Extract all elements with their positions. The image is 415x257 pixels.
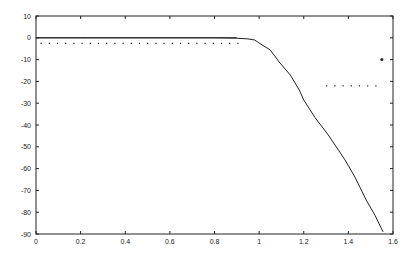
y-tick-label: 0 [27, 34, 31, 41]
marker-point [380, 58, 383, 61]
plot-frame [36, 16, 393, 234]
x-tick-label: 0.2 [76, 238, 86, 245]
y-tick-label: -30 [21, 100, 31, 107]
x-tick-label: 1.4 [344, 238, 354, 245]
y-tick-label: -40 [21, 122, 31, 129]
x-tick-label: 0 [34, 238, 38, 245]
plot-area [36, 16, 393, 234]
x-tick-label: 0.6 [165, 238, 175, 245]
chart: 00.20.40.60.811.21.41.6 100-10-20-30-40-… [0, 0, 415, 257]
y-tick-label: 10 [23, 13, 31, 20]
x-tick-label: 1 [257, 238, 261, 245]
y-tick-label: -80 [21, 209, 31, 216]
y-tick-label: -50 [21, 143, 31, 150]
x-tick-label: 1.6 [388, 238, 398, 245]
y-tick-label: -20 [21, 78, 31, 85]
x-tick-label: 1.2 [299, 238, 309, 245]
y-axis: 100-10-20-30-40-50-60-70-80-90 [21, 13, 393, 238]
x-tick-label: 0.8 [210, 238, 220, 245]
y-tick-label: -90 [21, 231, 31, 238]
response-line [36, 38, 383, 232]
x-tick-label: 0.4 [120, 238, 130, 245]
y-tick-label: -60 [21, 165, 31, 172]
y-tick-label: -10 [21, 56, 31, 63]
series-layer [36, 38, 383, 232]
x-axis: 00.20.40.60.811.21.41.6 [34, 16, 398, 245]
y-tick-label: -70 [21, 187, 31, 194]
